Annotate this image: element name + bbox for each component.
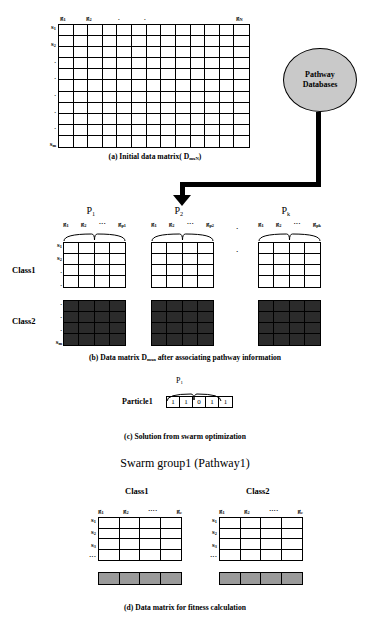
matrix-cell	[152, 312, 167, 323]
matrix-cell	[261, 550, 282, 561]
matrix-cell	[147, 92, 162, 103]
matrix-cell	[176, 69, 191, 80]
matrix-cell	[88, 103, 103, 114]
matrix-cell	[147, 47, 162, 58]
matrix-cell	[64, 243, 79, 254]
matrix-cell	[132, 114, 147, 125]
particle-bit-2: 1	[180, 397, 193, 407]
matrix-cell	[120, 573, 141, 584]
matrix-cell	[205, 36, 220, 47]
panel-b-caption-main: Data matrix D	[100, 353, 147, 362]
matrix-cell	[198, 312, 213, 323]
matrix-cell	[274, 312, 289, 323]
matrix-cell	[147, 80, 162, 91]
panel-b-class1-row-label-1: s1	[57, 242, 62, 249]
matrix-cell	[95, 312, 110, 323]
matrix-cell	[88, 25, 103, 36]
matrix-cell	[205, 80, 220, 91]
matrix-cell	[191, 36, 206, 47]
matrix-cell	[161, 529, 182, 540]
matrix-cell	[234, 92, 249, 103]
matrix-cell	[205, 69, 220, 80]
matrix-cell	[147, 58, 162, 69]
matrix-cell	[305, 323, 320, 334]
matrix-cell	[274, 301, 289, 312]
matrix-cell	[176, 47, 191, 58]
matrix-cell	[261, 573, 282, 584]
particle-bit-3: 0	[193, 397, 206, 407]
panel-a-row-label-1: s1	[51, 24, 56, 31]
panel-d-left-col-label-4: gc	[177, 508, 182, 515]
panel-d-left-col-label-3: ····	[148, 508, 157, 515]
matrix-cell	[220, 58, 235, 69]
matrix-cell	[152, 276, 167, 287]
panel-a-col-label-3: .	[118, 15, 120, 22]
pathway-databases-node: Pathway Databases	[283, 48, 357, 112]
matrix-cell	[259, 334, 274, 345]
matrix-cell	[198, 254, 213, 265]
panel-a-caption: (a) Initial data matrix( DmxN)	[30, 152, 280, 161]
panel-d-left-col-label-2: g2	[123, 508, 129, 515]
matrix-cell	[176, 58, 191, 69]
matrix-cell	[103, 80, 118, 91]
matrix-cell	[103, 58, 118, 69]
matrix-cell	[161, 103, 176, 114]
panel-a-col-label-1: g1	[60, 15, 66, 22]
matrix-cell	[183, 243, 198, 254]
matrix-cell	[305, 301, 320, 312]
matrix-cell	[99, 539, 120, 550]
matrix-cell	[161, 539, 182, 550]
matrix-cell	[183, 334, 198, 345]
matrix-cell	[234, 25, 249, 36]
matrix-cell	[147, 36, 162, 47]
panel-b-caption-sub: mxn	[147, 357, 156, 362]
matrix-cell	[152, 334, 167, 345]
matrix-cell	[205, 103, 220, 114]
matrix-cell	[259, 323, 274, 334]
panel-b-gene-label-g3-3: ···	[294, 221, 301, 228]
panel-d-right-col-label-1: g1	[219, 508, 225, 515]
panel-b-gene-label-g2-3: ···	[187, 221, 194, 228]
panel-a-row-labels: s1s2.....sm	[38, 24, 56, 148]
matrix-cell	[290, 312, 305, 323]
matrix-cell	[103, 136, 118, 147]
matrix-cell	[161, 125, 176, 136]
matrix-cell	[88, 69, 103, 80]
matrix-cell	[152, 254, 167, 265]
matrix-cell	[140, 529, 161, 540]
matrix-cell	[167, 243, 182, 254]
matrix-cell	[183, 254, 198, 265]
panel-d-right-col-label-3: ····	[269, 508, 278, 515]
panel-b-class2-group-1	[63, 300, 126, 346]
panel-b-class2-group-3	[258, 300, 321, 346]
matrix-cell	[59, 136, 74, 147]
matrix-cell	[95, 276, 110, 287]
matrix-cell	[103, 114, 118, 125]
matrix-cell	[132, 25, 147, 36]
matrix-cell	[161, 58, 176, 69]
pathway-databases-line1: Pathway	[303, 70, 338, 80]
matrix-cell	[132, 136, 147, 147]
matrix-cell	[103, 69, 118, 80]
panel-b-brace-3	[258, 232, 321, 241]
panel-b-separator-top: ·	[236, 225, 239, 233]
matrix-cell	[191, 136, 206, 147]
matrix-cell	[167, 312, 182, 323]
matrix-cell	[59, 25, 74, 36]
matrix-cell	[103, 103, 118, 114]
matrix-cell	[191, 80, 206, 91]
matrix-cell	[234, 80, 249, 91]
matrix-cell	[64, 254, 79, 265]
panel-c-group-label: P1	[176, 376, 183, 385]
matrix-cell	[205, 47, 220, 58]
panel-d-left-matrix	[98, 517, 182, 561]
matrix-cell	[290, 265, 305, 276]
matrix-cell	[74, 136, 89, 147]
matrix-cell	[234, 114, 249, 125]
matrix-cell	[120, 550, 141, 561]
matrix-cell	[74, 92, 89, 103]
panel-c-brace	[166, 387, 222, 396]
panel-b-class2-row-label-2: .	[60, 313, 62, 320]
panel-a-row-label-4: .	[54, 74, 56, 81]
matrix-cell	[140, 550, 161, 561]
